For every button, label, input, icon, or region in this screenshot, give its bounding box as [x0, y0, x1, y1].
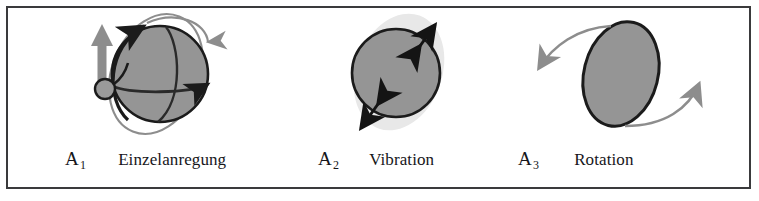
- panel-tag-subscript: 1: [80, 158, 86, 172]
- panel-einzelanregung: A1 Einzelanregung: [8, 8, 308, 187]
- panel-tag-letter: A: [65, 148, 79, 169]
- caption-rotation: A3 Rotation: [493, 148, 759, 173]
- panel-label-einzelanregung: Einzelanregung: [118, 150, 226, 170]
- vibration-illustration: [308, 8, 493, 140]
- panel-tag-letter: A: [318, 148, 332, 169]
- panel-tag-a1: A1: [65, 148, 86, 173]
- panel-label-rotation: Rotation: [574, 150, 633, 170]
- panel-tag-a3: A3: [518, 148, 539, 173]
- einzelanregung-illustration: [8, 8, 308, 140]
- figure-frame: A1 Einzelanregung: [6, 6, 751, 189]
- caption-vibration: A2 Vibration: [308, 148, 503, 173]
- panel-tag-letter: A: [518, 148, 532, 169]
- panel-vibration: A2 Vibration: [308, 8, 493, 187]
- rotation-illustration: [493, 8, 753, 140]
- gray-sphere: [352, 29, 440, 117]
- panel-tag-subscript: 3: [533, 158, 539, 172]
- panel-tag-a2: A2: [318, 148, 339, 173]
- figure-root: A1 Einzelanregung: [0, 0, 759, 201]
- panel-label-vibration: Vibration: [369, 150, 434, 170]
- panel-tag-subscript: 2: [333, 158, 339, 172]
- panel-rotation: A3 Rotation: [493, 8, 753, 187]
